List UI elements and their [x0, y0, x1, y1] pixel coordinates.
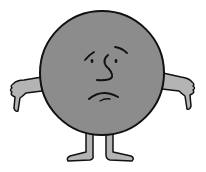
left-leg [67, 132, 93, 161]
right-leg [106, 132, 133, 161]
left-arm-thumbs-down [11, 77, 43, 111]
left-eye [91, 59, 94, 63]
right-arm-thumbs-down [162, 73, 195, 109]
sad-character-illustration: Sad gray circle character with thumbs do… [0, 0, 206, 172]
right-eye [115, 59, 118, 63]
body-circle [40, 11, 164, 135]
